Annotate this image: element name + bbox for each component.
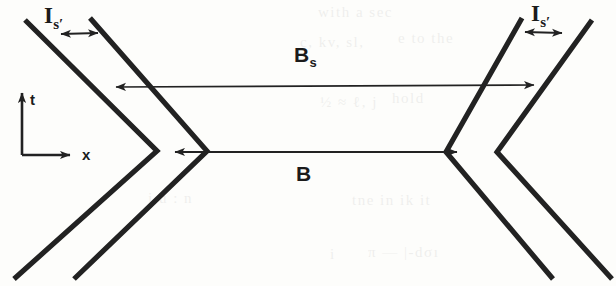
left-inner-worldline	[74, 18, 207, 279]
label-right-interval: Is′	[531, 2, 550, 25]
label-left-interval-sub: s′	[53, 16, 63, 32]
label-right-interval-sub: s′	[540, 14, 550, 30]
left-interval-arrow	[61, 33, 98, 34]
label-axis-space: x	[82, 147, 90, 162]
spacetime-wedge-figure: with a sec e to the c, kv, sl, hold ½ ≈ …	[0, 0, 616, 286]
label-upper-span-sub: s	[309, 55, 316, 70]
label-right-interval-base: I	[531, 1, 540, 26]
label-axis-time: t	[30, 92, 35, 107]
label-upper-span-base: B	[294, 43, 309, 66]
right-interval-arrow	[525, 32, 562, 33]
label-lower-span: B	[296, 163, 311, 184]
label-lower-span-base: B	[296, 162, 311, 185]
right-outer-worldline	[497, 20, 612, 279]
label-upper-span: Bs	[294, 44, 317, 65]
label-left-interval: Is′	[44, 4, 63, 27]
label-left-interval-base: I	[44, 3, 53, 28]
upper-span-arrow	[116, 85, 534, 87]
